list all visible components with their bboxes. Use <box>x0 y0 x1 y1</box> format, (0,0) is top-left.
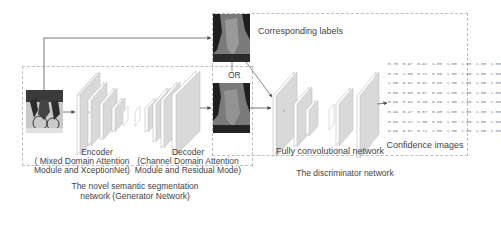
matrix-row: 0.990.470.870.981.001.001.001.00 <box>388 108 501 118</box>
matrix-row: 0.700.970.921.001.001.001.001.00 <box>388 60 501 70</box>
matrix-row: 1.000.910.920.981.001.001.001.00 <box>388 79 501 89</box>
confidence-images-label: Confidence images <box>385 140 465 150</box>
generator-network-caption-2: network (Generator Network) <box>60 191 210 201</box>
encoder-subtitle-2: Module and XceptionNet) <box>27 165 137 175</box>
discriminator-network-caption: The discriminator network <box>290 168 400 178</box>
confidence-matrix: 0.700.970.921.001.001.001.001.00 0.791.0… <box>388 60 501 137</box>
matrix-row: 0.890.980.570.991.001.001.001.00 <box>388 89 501 99</box>
matrix-row: 0.990.870.711.001.001.001.001.00 <box>388 127 501 137</box>
or-label: OR <box>228 70 241 80</box>
matrix-row: 0.990.940.450.991.001.001.001.00 <box>388 98 501 108</box>
decoder-layers <box>135 71 200 155</box>
decoder-subtitle-2: Module and Residual Mode) <box>132 165 244 175</box>
matrix-row: 0.990.471.000.991.001.001.001.00 <box>388 118 501 128</box>
encoder-layers: ≡ <box>77 73 128 155</box>
matrix-row: 0.791.000.710.991.001.001.001.00 <box>388 70 501 80</box>
generator-network-caption-1: The novel semantic segmentation <box>60 181 210 191</box>
corresponding-labels-label: Corresponding labels <box>258 26 343 36</box>
fcn-label: Fully convolutional network <box>275 146 385 156</box>
